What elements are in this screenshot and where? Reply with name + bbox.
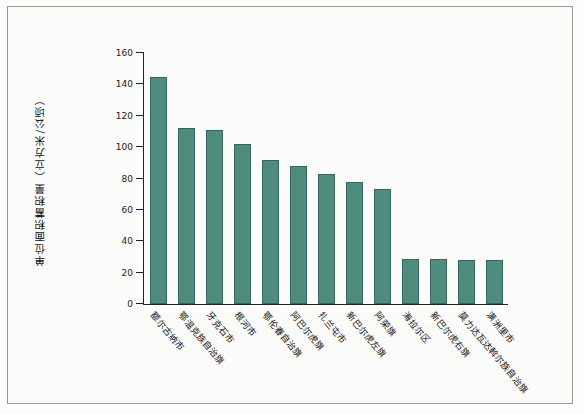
chart-frame: 单位面积蓄积量（立方米/公顷） 020406080100120140160 额尔… [7,6,573,404]
y-axis-tick-label: 120 [116,111,133,121]
y-axis-tick [136,178,144,179]
y-axis-tick-label: 60 [122,205,133,215]
bar [262,160,279,304]
x-axis-tick-label: 根河市 [232,309,260,339]
bar [206,130,223,304]
bar-group: 新巴尔虎右旗 [424,53,452,304]
y-axis-title-text: 单位面积蓄积量（立方米/公顷） [32,93,47,266]
y-axis-tick-label: 40 [122,236,133,246]
y-axis-tick [136,272,144,273]
bar [178,128,195,304]
y-axis-tick [136,52,144,53]
bar-group: 额尔古纳市 [144,53,172,304]
bar-group: 鄂伦春自治旗 [256,53,284,304]
y-axis-tick [136,240,144,241]
y-axis-title: 单位面积蓄积量（立方米/公顷） [30,53,48,305]
y-axis-tick-label: 20 [122,268,133,278]
y-axis-tick [136,115,144,116]
bar-group: 满洲里市 [480,53,508,304]
plot-area: 020406080100120140160 额尔古纳市鄂温克族自治旗牙克石市根河… [143,53,508,305]
bar [346,182,363,304]
bar [402,259,419,304]
bar-group: 鄂温克族自治旗 [172,53,200,304]
bar-group: 根河市 [228,53,256,304]
bar-group: 牙克石市 [200,53,228,304]
y-axis-tick [136,303,144,304]
bar [374,189,391,304]
screenshot-page: 单位面积蓄积量（立方米/公顷） 020406080100120140160 额尔… [0,0,584,414]
bar-group: 新巴尔虎左旗 [340,53,368,304]
bar-series: 额尔古纳市鄂温克族自治旗牙克石市根河市鄂伦春自治旗阿巴尔虎旗扎兰屯市新巴尔虎左旗… [144,53,508,304]
bar [234,144,251,304]
x-axis-tick-label: 阿荣旗 [372,309,400,339]
bar-group: 扎兰屯市 [312,53,340,304]
y-axis-tick-label: 100 [116,142,133,152]
bar [318,174,335,304]
y-axis-tick-label: 0 [127,299,133,309]
y-axis-tick [136,83,144,84]
bar-group: 阿巴尔虎旗 [284,53,312,304]
y-axis-tick-label: 80 [122,174,133,184]
bar [458,260,475,304]
bar [290,166,307,304]
bar [430,259,447,304]
bar [150,77,167,304]
y-axis-tick-label: 160 [116,48,133,58]
bar-group: 阿荣旗 [368,53,396,304]
y-axis-tick [136,146,144,147]
bar-group: 海拉尔区 [396,53,424,304]
y-axis-tick-label: 140 [116,79,133,89]
y-axis-tick [136,209,144,210]
x-axis-tick-label: 海拉尔区 [400,309,434,346]
bar-group: 莫力达瓦达斡尔族自治旗 [452,53,480,304]
bar [486,260,503,304]
